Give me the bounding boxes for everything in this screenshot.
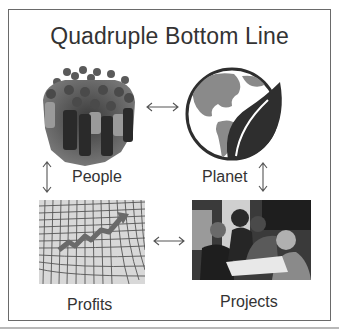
arrow-people-profits (40, 160, 54, 194)
node-label-projects: Projects (220, 293, 278, 311)
people-crowd-image (25, 62, 145, 167)
arrow-people-planet (145, 100, 180, 114)
diagram-title: Quadruple Bottom Line (0, 23, 339, 50)
projects-meeting-image (192, 200, 311, 280)
arrow-profits-projects (152, 234, 186, 248)
profits-chart-image (39, 200, 145, 284)
globe-leaf-icon (182, 64, 287, 164)
node-label-planet: Planet (202, 168, 247, 186)
node-label-profits: Profits (67, 296, 112, 314)
arrow-planet-projects (256, 161, 270, 193)
bottom-divider (0, 327, 339, 329)
node-label-people: People (72, 168, 122, 186)
